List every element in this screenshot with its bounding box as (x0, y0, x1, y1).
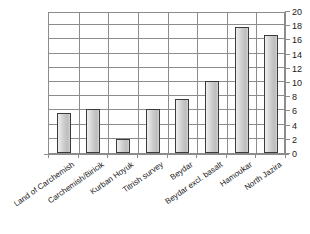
y-axis-tick (285, 68, 290, 69)
x-axis-tick (78, 154, 79, 158)
y-axis-tick (285, 96, 290, 97)
y-axis-tick-label: 2 (292, 135, 297, 144)
y-axis: 02468101214161820 (285, 12, 310, 154)
x-axis-tick (167, 154, 168, 158)
gridline-vertical (227, 13, 228, 153)
bar (57, 113, 71, 153)
gridline-vertical (197, 13, 198, 153)
y-axis-tick-label: 0 (292, 150, 297, 159)
bar (86, 109, 100, 153)
y-axis-tick (285, 11, 290, 12)
y-axis-tick (285, 54, 290, 55)
gridline-vertical (168, 13, 169, 153)
y-axis-tick (285, 125, 290, 126)
y-axis-tick-label: 12 (292, 64, 302, 73)
x-axis-tick (226, 154, 227, 158)
y-axis-tick-label: 18 (292, 22, 302, 31)
x-axis-tick (196, 154, 197, 158)
y-axis-tick (285, 139, 290, 140)
bar (116, 139, 130, 153)
bar-chart: 02468101214161820 Land of CarchemishCarc… (0, 0, 310, 234)
x-axis-tick (48, 154, 49, 158)
bar (264, 35, 278, 153)
y-axis-tick-label: 14 (292, 50, 302, 59)
y-axis-tick-label: 10 (292, 79, 302, 88)
x-axis-tick (137, 154, 138, 158)
y-axis-line (285, 12, 286, 154)
bar (205, 81, 219, 153)
y-axis-tick-label: 8 (292, 93, 297, 102)
gridline-vertical (138, 13, 139, 153)
bar (235, 27, 249, 153)
gridline-vertical (79, 13, 80, 153)
x-axis-tick (107, 154, 108, 158)
y-axis-tick (285, 39, 290, 40)
y-axis-tick (285, 82, 290, 83)
y-axis-tick (285, 25, 290, 26)
gridline-vertical (108, 13, 109, 153)
y-axis-tick-label: 20 (292, 8, 302, 17)
plot-area (48, 12, 285, 154)
y-axis-tick-label: 4 (292, 121, 297, 130)
y-axis-tick-label: 6 (292, 107, 297, 116)
x-axis-tick (285, 154, 286, 158)
gridline-vertical (256, 13, 257, 153)
gridline-horizontal (49, 24, 284, 25)
y-axis-tick-label: 16 (292, 36, 302, 45)
bar (146, 109, 160, 153)
bar (175, 99, 189, 153)
y-axis-tick (285, 110, 290, 111)
x-axis-tick (255, 154, 256, 158)
